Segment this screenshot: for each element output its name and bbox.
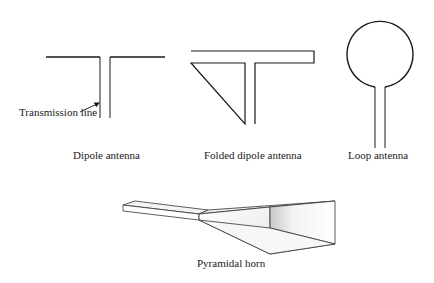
pyramidal-horn-label: Pyramidal horn [197, 257, 265, 269]
folded-dipole-antenna [191, 51, 314, 124]
folded-dipole-antenna-label: Folded dipole antenna [204, 149, 302, 161]
loop-antenna [347, 21, 413, 148]
loop-antenna-label: Loop antenna [348, 149, 408, 161]
pyramidal-horn [123, 201, 335, 254]
antenna-diagram [0, 0, 434, 283]
transmission-line-label: Transmission line [19, 106, 97, 118]
dipole-antenna-label: Dipole antenna [73, 149, 140, 161]
